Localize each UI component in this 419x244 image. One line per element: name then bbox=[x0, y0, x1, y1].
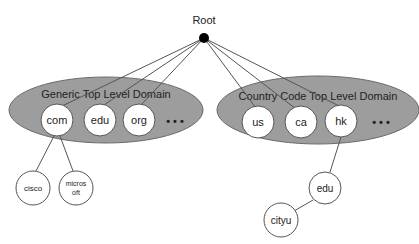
subdomain-node-cisco: cisco bbox=[16, 171, 50, 205]
generic-tld-ellipsis: • • • bbox=[166, 115, 184, 127]
subdomain-node-microsoft-label-line2: oft bbox=[72, 189, 80, 196]
root-node-dot bbox=[199, 33, 209, 43]
tld-node-org: org bbox=[123, 104, 155, 136]
subdomain-node-microsoft-label-line1: micros bbox=[66, 180, 87, 187]
edge-edu-cityu bbox=[294, 200, 313, 211]
tld-node-edu-label: edu bbox=[91, 114, 109, 126]
subdomain-node-cisco-label: cisco bbox=[24, 184, 43, 193]
tld-node-com: com bbox=[41, 104, 73, 136]
dns-hierarchy-diagram: Root Generic Top Level Domain Country Co… bbox=[0, 0, 419, 244]
country-code-tld-label: Country Code Top Level Domain bbox=[239, 90, 398, 102]
tld-node-us-label: us bbox=[252, 116, 264, 128]
tld-node-ca: ca bbox=[285, 106, 317, 138]
tld-node-us: us bbox=[242, 106, 274, 138]
tld-node-com-label: com bbox=[47, 114, 68, 126]
tld-node-hk-label: hk bbox=[335, 115, 347, 127]
edge-com-cisco bbox=[36, 136, 54, 171]
subdomain-node-cityu-label: cityu bbox=[271, 215, 292, 226]
tld-node-ca-label: ca bbox=[295, 116, 308, 128]
root-label: Root bbox=[192, 14, 215, 26]
subdomain-node-microsoft: micros oft bbox=[59, 171, 93, 205]
country-code-tld-ellipsis: • • • bbox=[372, 116, 390, 128]
subdomain-node-cityu: cityu bbox=[264, 203, 298, 237]
tld-node-edu: edu bbox=[84, 104, 116, 136]
tld-node-hk: hk bbox=[325, 105, 357, 137]
tld-node-org-label: org bbox=[131, 114, 147, 126]
subdomain-node-hk-edu: edu bbox=[309, 172, 341, 204]
subdomain-node-hk-edu-label: edu bbox=[317, 183, 334, 194]
